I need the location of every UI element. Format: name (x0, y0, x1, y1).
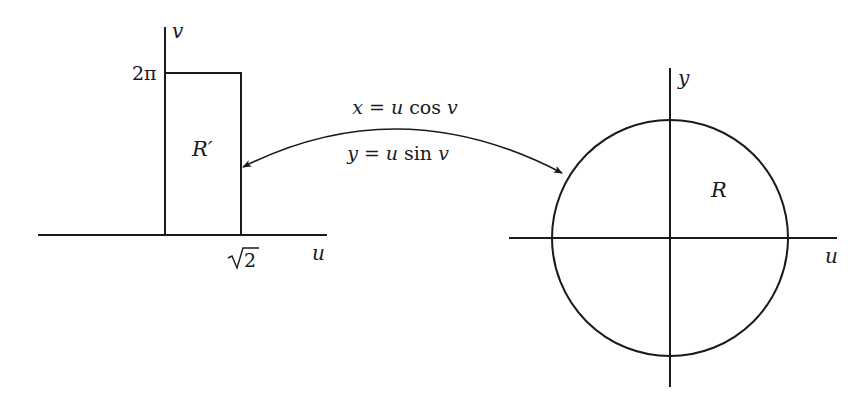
equation-x: x=ucosv (352, 96, 458, 118)
region-r-prime-label: R′ (191, 137, 213, 161)
transformation-diagram: v 2π R′ 2 u x=ucosv y=usinv y R u (0, 0, 866, 400)
mapping: x=ucosv y=usinv (243, 96, 562, 173)
double-arrow-icon (243, 129, 562, 173)
y-axis-label: y (677, 66, 690, 90)
u-bound-radicand: 2 (244, 249, 256, 271)
xy-plane: y R u (509, 66, 838, 387)
v-bound-label: 2π (132, 62, 157, 84)
horizontal-axis-label: u (825, 244, 838, 268)
u-bound-label: 2 (228, 248, 259, 271)
v-axis-label: v (172, 19, 184, 43)
u-axis-label: u (312, 241, 325, 265)
uv-plane: v 2π R′ 2 u (38, 19, 327, 271)
equation-y: y=usinv (346, 142, 449, 164)
region-r-label: R (710, 178, 727, 202)
